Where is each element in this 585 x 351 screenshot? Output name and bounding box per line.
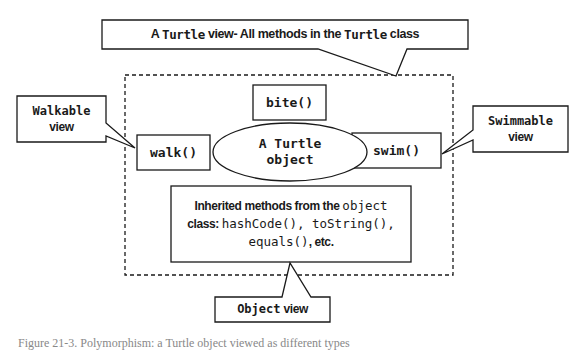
inherited-line-1: Inherited methods from the object [194, 197, 387, 215]
object-word: Object [237, 302, 280, 316]
turtle-view-prefix: A [151, 27, 162, 42]
turtle-view-callout-label: A Turtle view- All methods in the Turtle… [102, 20, 468, 49]
inherited-line2-text: class: [187, 217, 222, 231]
swimmable-view-word: view [508, 129, 532, 145]
object-view-word: view [281, 302, 308, 316]
bite-method-label: bite() [253, 85, 326, 120]
swimmable-view-label: Swimmable view [473, 106, 568, 152]
figure-caption: Figure 21-3. Polymorphism: a Turtle obje… [18, 336, 350, 351]
equals-method-code: equals() [248, 234, 308, 249]
turtle-object-label: A Turtle object [213, 123, 367, 181]
inherited-line3-text: , etc. [309, 235, 334, 249]
inherited-line1-text: Inherited methods from the [194, 199, 342, 213]
walkable-view-word: view [49, 119, 73, 135]
turtle-view-suffix: class [387, 27, 419, 42]
inherited-line-3: equals(), etc. [248, 233, 333, 251]
walk-method-label: walk() [137, 135, 210, 170]
swimmable-word: Swimmable [488, 113, 553, 129]
turtle-class-code: Turtle [162, 27, 205, 42]
walkable-word: Walkable [33, 103, 91, 119]
inherited-methods-label: Inherited methods from the object class:… [171, 186, 411, 262]
inherited-methods-code: hashCode(), toString(), [222, 216, 395, 231]
inherited-line-2: class: hashCode(), toString(), [187, 215, 395, 233]
object-view-label: Object view [215, 297, 330, 322]
turtle-view-middle: view- All methods in the [205, 27, 344, 42]
turtle-object-line1: A Turtle [259, 136, 322, 152]
walkable-view-label: Walkable view [17, 96, 106, 142]
turtle-object-line2: object [267, 152, 314, 168]
turtle-class-code-2: Turtle [344, 27, 387, 42]
object-class-code: object [342, 198, 387, 213]
